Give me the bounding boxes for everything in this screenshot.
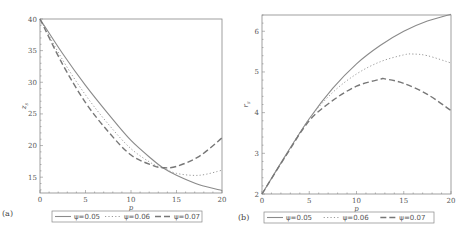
x-tick-label: 10: [127, 196, 136, 204]
plot-frame: [262, 15, 451, 194]
x-tick-label: 10: [352, 197, 361, 205]
legend-label-3: ψ=0.07: [174, 213, 200, 221]
series-line-1: [262, 14, 451, 194]
legend-label-1: ψ=0.05: [286, 214, 312, 222]
series-line-3: [40, 19, 222, 168]
legend: ψ=0.05ψ=0.06ψ=0.07: [52, 211, 202, 222]
series-line-1: [40, 19, 222, 190]
legend: ψ=0.05ψ=0.06ψ=0.07: [264, 212, 434, 223]
chart-panel-b: 0510152023456prs(b)ψ=0.05ψ=0.06ψ=0.07: [237, 0, 474, 240]
panel-label: (a): [2, 209, 13, 218]
series-line-2: [262, 54, 451, 194]
chart-b-canvas: 0510152023456prs(b)ψ=0.05ψ=0.06ψ=0.07: [237, 0, 474, 240]
y-tick-label: 6: [255, 28, 260, 36]
series-line-3: [262, 78, 451, 194]
legend-label-2: ψ=0.06: [124, 213, 151, 221]
chart-panel-a: 05101520152025303540pzs(a)ψ=0.05ψ=0.06ψ=…: [0, 0, 237, 240]
y-axis-label-subscript: s: [23, 102, 29, 105]
y-axis-label-subscript: s: [245, 101, 251, 104]
y-tick-label: 40: [28, 16, 37, 24]
x-tick-label: 20: [218, 196, 227, 204]
x-tick-label: 0: [38, 196, 42, 204]
y-tick-label: 4: [255, 109, 260, 117]
panel-label: (b): [238, 213, 249, 222]
y-tick-label: 35: [28, 47, 37, 55]
y-axis-label: zs: [20, 102, 29, 110]
x-tick-label: 0: [260, 197, 264, 205]
y-tick-label: 20: [28, 142, 37, 150]
y-tick-label: 15: [28, 174, 37, 182]
legend-label-2: ψ=0.06: [343, 214, 370, 222]
series-line-2: [40, 19, 222, 175]
legend-label-3: ψ=0.07: [399, 214, 425, 222]
x-tick-label: 5: [307, 197, 311, 205]
x-tick-label: 15: [399, 197, 408, 205]
x-tick-label: 20: [447, 197, 456, 205]
x-tick-label: 5: [83, 196, 87, 204]
chart-a-canvas: 05101520152025303540pzs(a)ψ=0.05ψ=0.06ψ=…: [0, 0, 237, 240]
x-tick-label: 15: [172, 196, 181, 204]
legend-label-1: ψ=0.05: [74, 213, 100, 221]
y-tick-label: 5: [255, 68, 259, 76]
y-tick-label: 25: [28, 110, 37, 118]
y-tick-label: 2: [255, 191, 259, 199]
y-tick-label: 30: [28, 79, 37, 87]
y-tick-label: 3: [255, 150, 259, 158]
plot-frame: [40, 19, 222, 193]
y-axis-label: rs: [242, 101, 251, 107]
